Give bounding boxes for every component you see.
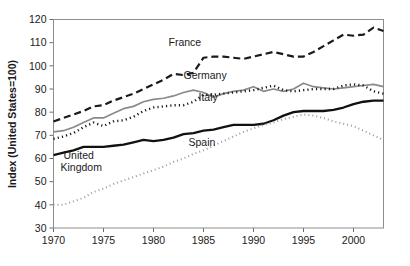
series-labels-group: FranceGermanyItalyUnitedKingdomSpain (61, 36, 228, 172)
x-tick-label: 2000 (342, 234, 366, 246)
plot-frame (54, 20, 384, 229)
y-tick-label: 30 (35, 222, 47, 234)
y-tick-label: 90 (35, 83, 47, 95)
series-line-united-kingdom (54, 101, 384, 155)
y-tick-label: 110 (30, 36, 47, 48)
x-tick-label: 1980 (142, 234, 166, 246)
chart-container: Index (United States=100) 30405060708090… (0, 0, 410, 266)
x-tick-label: 1975 (92, 234, 116, 246)
data-series-group (54, 28, 384, 205)
y-tick-label: 40 (35, 199, 47, 211)
x-tick-label: 1970 (42, 234, 66, 246)
y-tick-label: 120 (29, 13, 47, 25)
series-line-italy (54, 84, 384, 138)
y-axis-ticks: 30405060708090100110120 (29, 13, 54, 234)
series-label-france: France (169, 36, 202, 48)
series-line-germany (54, 83, 384, 132)
y-tick-label: 100 (29, 60, 47, 72)
y-tick-label: 70 (35, 129, 47, 141)
series-label-united-kingdom: United (64, 149, 95, 161)
y-tick-label: 50 (35, 175, 47, 187)
x-tick-label: 1995 (292, 234, 316, 246)
y-axis-title: Index (United States=100) (6, 60, 18, 188)
series-label-italy: Italy (199, 91, 219, 103)
series-label-germany: Germany (184, 69, 228, 81)
x-tick-label: 1990 (242, 234, 266, 246)
y-tick-label: 60 (35, 152, 47, 164)
series-label-spain: Spain (189, 136, 216, 148)
y-axis-title-group: Index (United States=100) (6, 60, 18, 188)
series-label-united-kingdom-line2: Kingdom (61, 161, 103, 173)
x-tick-label: 1985 (192, 234, 216, 246)
line-chart: Index (United States=100) 30405060708090… (0, 0, 410, 266)
x-axis-ticks: 1970197519801985199019952000 (42, 228, 366, 246)
y-tick-label: 80 (35, 106, 47, 118)
